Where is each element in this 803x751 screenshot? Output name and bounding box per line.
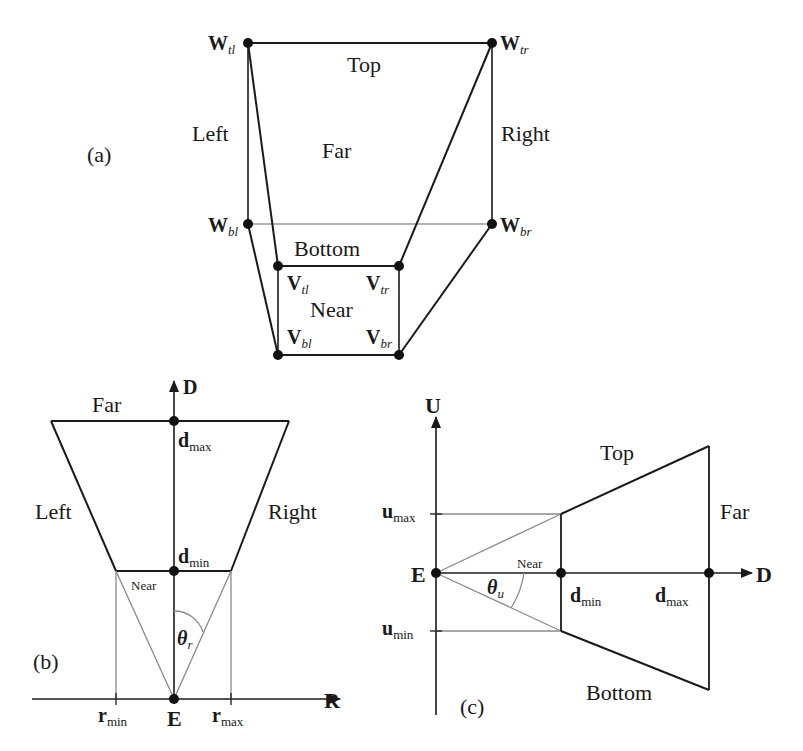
label-theta-r: θr	[177, 627, 193, 652]
u-axis-label: U	[425, 393, 441, 418]
angle-arc-theta-u	[511, 573, 524, 608]
d-axis-label: D	[756, 562, 772, 587]
region-top: Top	[600, 440, 634, 465]
vertex-w-tl	[243, 38, 253, 48]
region-top: Top	[347, 52, 381, 77]
r-axis-label: R	[324, 688, 341, 713]
point-eye	[169, 694, 179, 704]
region-near: Near	[517, 556, 543, 571]
label-w-tl: Wtl	[208, 32, 236, 57]
point-eye	[431, 568, 441, 578]
region-right: Right	[501, 121, 550, 146]
point-d-max	[704, 568, 714, 578]
label-d-min: dmin	[178, 545, 210, 570]
point-d-min	[556, 568, 566, 578]
label-v-tr: Vtr	[366, 272, 390, 297]
vertex-v-tr	[394, 261, 404, 271]
point-d-min	[169, 566, 179, 576]
label-v-br: Vbr	[366, 326, 393, 351]
label-u-min: umin	[382, 617, 414, 642]
region-far: Far	[322, 138, 352, 163]
label-w-bl: Wbl	[208, 214, 239, 239]
panel-a: (a) Top Left Right Far Bottom Near Wtl W…	[87, 32, 550, 360]
panel-b-tag: (b)	[33, 649, 59, 674]
label-eye: E	[167, 706, 182, 731]
region-bottom: Bottom	[294, 236, 360, 261]
panel-a-tag: (a)	[87, 142, 111, 167]
vertex-w-br	[487, 219, 497, 229]
frustum-diagram: (a) Top Left Right Far Bottom Near Wtl W…	[0, 0, 803, 751]
vertex-v-bl	[273, 350, 283, 360]
label-d-max: dmax	[178, 429, 212, 454]
region-far: Far	[92, 392, 122, 417]
label-d-max: dmax	[655, 584, 689, 609]
label-v-bl: Vbl	[287, 326, 312, 351]
label-u-max: umax	[382, 500, 416, 525]
region-near: Near	[131, 578, 157, 593]
region-far: Far	[720, 499, 750, 524]
region-right: Right	[268, 499, 317, 524]
label-d-min: dmin	[570, 584, 602, 609]
d-axis-label: D	[183, 376, 197, 398]
region-bottom: Bottom	[586, 680, 652, 705]
panel-b: D R Far Left Right Near (b) dmax dmin rm…	[32, 376, 341, 731]
label-w-tr: Wtr	[500, 32, 530, 57]
label-w-br: Wbr	[500, 214, 533, 239]
label-v-tl: Vtl	[287, 272, 309, 297]
label-r-min: rmin	[98, 704, 128, 729]
region-near: Near	[310, 297, 353, 322]
point-d-max	[169, 416, 179, 426]
label-eye: E	[411, 562, 426, 587]
label-theta-u: θu	[487, 576, 504, 601]
vertex-v-br	[394, 350, 404, 360]
region-left: Left	[35, 499, 72, 524]
label-r-max: rmax	[212, 704, 244, 729]
vertex-v-tl	[273, 261, 283, 271]
vertex-w-bl	[243, 219, 253, 229]
vertex-w-tr	[487, 38, 497, 48]
region-left: Left	[192, 121, 229, 146]
panel-c-tag: (c)	[460, 694, 484, 719]
panel-c: U D Top Far Bottom Near (c) umax umin E …	[382, 393, 772, 719]
